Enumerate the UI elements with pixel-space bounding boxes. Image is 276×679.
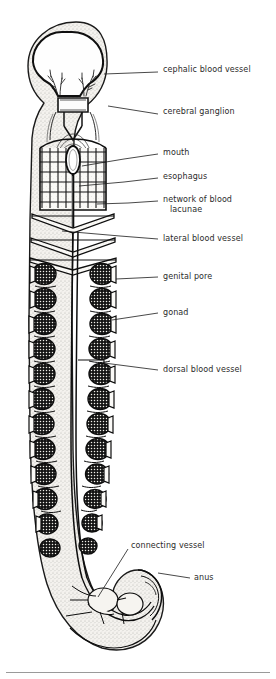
label-network-of-blood-lacunae-line2: lacunae <box>170 205 202 215</box>
label-genital-pore: genital pore <box>163 272 212 282</box>
anatomy-diagram <box>0 0 276 679</box>
label-cephalic-blood-vessel: cephalic blood vessel <box>163 65 251 75</box>
label-network-of-blood-lacunae: network of blood <box>163 195 232 205</box>
mouth <box>66 146 80 174</box>
page-bottom-rule <box>6 672 270 673</box>
label-lateral-blood-vessel: lateral blood vessel <box>163 234 243 244</box>
leader-cephalic-blood-vessel <box>104 72 158 74</box>
leader-lateral-blood-vessel <box>62 231 158 239</box>
leader-cerebral-ganglion <box>108 106 158 114</box>
label-anus: anus <box>194 573 214 583</box>
leader-anus <box>158 573 190 578</box>
leader-gonad <box>112 313 158 320</box>
leader-genital-pore <box>116 277 158 279</box>
label-mouth: mouth <box>163 148 189 158</box>
label-gonad: gonad <box>163 308 189 318</box>
esophagus <box>72 174 73 232</box>
label-dorsal-blood-vessel: dorsal blood vessel <box>163 365 242 375</box>
label-cerebral-ganglion: cerebral ganglion <box>163 107 235 117</box>
label-esophagus: esophagus <box>163 172 207 182</box>
label-connecting-vessel: connecting vessel <box>131 541 205 551</box>
figure-page: cephalic blood vessel cerebral ganglion … <box>0 0 276 679</box>
